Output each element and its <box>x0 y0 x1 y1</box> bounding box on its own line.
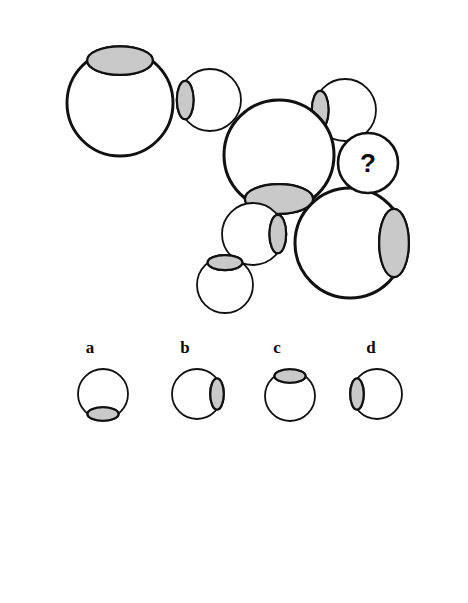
option-label-c: c <box>273 338 281 357</box>
answer-option-b[interactable]: b <box>172 338 224 419</box>
option-eyeball-a[interactable] <box>78 369 128 421</box>
option-eyeball-b[interactable] <box>172 369 224 419</box>
question-mark-icon: ? <box>360 148 376 178</box>
eyeball-sequence-svg: ? abcd <box>0 0 468 603</box>
iris-group-right <box>379 209 409 277</box>
answer-option-c[interactable]: c <box>265 338 315 421</box>
option-eyeball-d[interactable] <box>350 369 402 419</box>
iris-group-bottom <box>88 407 119 421</box>
answer-option-d[interactable]: d <box>350 338 402 419</box>
iris-rim <box>87 46 153 75</box>
option-label-b: b <box>180 338 189 357</box>
puzzle-figure: ? abcd <box>0 0 468 603</box>
iris-group-left <box>350 379 364 410</box>
puzzle-sequence-group: ? <box>67 46 409 313</box>
iris-group-top <box>208 255 243 270</box>
iris-rim <box>379 209 409 277</box>
iris-group-right <box>269 215 286 253</box>
iris-rim <box>210 379 224 410</box>
option-eyeball-c[interactable] <box>265 369 315 421</box>
iris-rim <box>275 369 306 383</box>
iris-group-top <box>275 369 306 383</box>
puzzle-eyeball-1 <box>67 46 173 156</box>
iris-group-top <box>87 46 153 75</box>
iris-rim <box>208 255 243 270</box>
answer-option-a[interactable]: a <box>78 338 128 421</box>
missing-eyeball-placeholder[interactable]: ? <box>338 133 398 193</box>
puzzle-eyeball-2 <box>177 69 241 131</box>
iris-group-right <box>210 379 224 410</box>
iris-rim <box>88 407 119 421</box>
iris-rim <box>269 215 286 253</box>
puzzle-eyeball-7 <box>295 188 409 298</box>
iris-group-left <box>177 81 194 119</box>
option-label-a: a <box>86 338 95 357</box>
iris-rim <box>350 379 364 410</box>
answer-options-group: abcd <box>78 338 402 421</box>
option-label-d: d <box>366 338 376 357</box>
iris-rim <box>177 81 194 119</box>
